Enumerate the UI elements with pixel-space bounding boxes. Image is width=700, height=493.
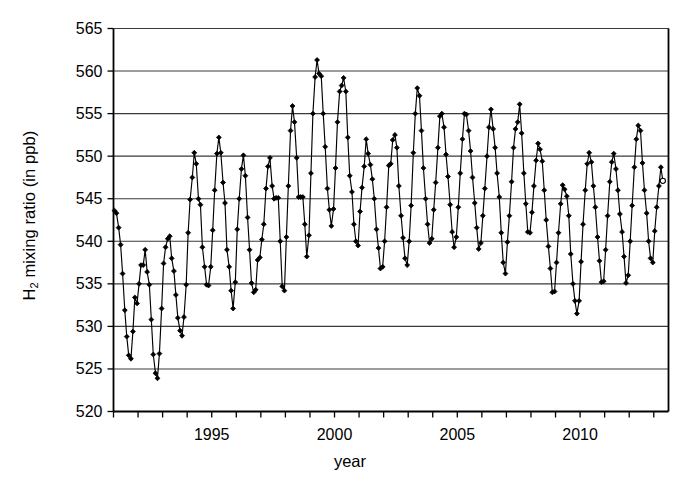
data-point xyxy=(192,150,197,155)
data-point xyxy=(499,230,504,235)
data-point xyxy=(593,205,598,210)
data-point xyxy=(353,239,358,244)
data-point xyxy=(509,179,514,184)
data-point xyxy=(652,229,657,234)
data-point xyxy=(178,328,183,333)
data-point xyxy=(143,247,148,252)
data-point xyxy=(505,240,510,245)
data-point xyxy=(323,144,328,149)
data-point xyxy=(507,213,512,218)
data-point xyxy=(615,188,620,193)
data-point xyxy=(208,264,213,269)
y-tick-label-560: 560 xyxy=(76,63,103,80)
data-point xyxy=(646,239,651,244)
x-tick-label-2005: 2005 xyxy=(440,426,476,443)
data-point xyxy=(190,175,195,180)
data-point xyxy=(470,175,475,180)
data-point xyxy=(218,150,223,155)
data-point xyxy=(313,75,318,80)
data-point xyxy=(458,171,463,176)
data-point xyxy=(442,125,447,130)
data-point xyxy=(304,254,309,259)
data-point xyxy=(221,180,226,185)
data-point xyxy=(480,213,485,218)
data-point xyxy=(374,227,379,232)
data-point xyxy=(493,145,498,150)
data-point xyxy=(564,194,569,199)
data-point xyxy=(617,212,622,217)
data-point xyxy=(245,215,250,220)
data-point xyxy=(542,188,547,193)
data-point xyxy=(581,222,586,227)
data-point xyxy=(175,315,180,320)
data-point xyxy=(137,281,142,286)
data-point xyxy=(288,128,293,133)
data-point xyxy=(216,135,221,140)
data-point xyxy=(634,137,639,142)
data-point xyxy=(489,107,494,112)
data-point xyxy=(155,376,160,381)
data-point xyxy=(368,162,373,167)
data-point xyxy=(511,145,516,150)
y-tick-labels-group: 520525530535540545550555560565 xyxy=(76,20,103,420)
data-point xyxy=(135,301,140,306)
data-point xyxy=(544,218,549,223)
data-point xyxy=(454,235,459,240)
data-point xyxy=(292,120,297,125)
y-tick-label-555: 555 xyxy=(76,105,103,122)
data-point xyxy=(308,171,313,176)
data-point xyxy=(485,154,490,159)
series-line-0 xyxy=(114,60,662,378)
data-point xyxy=(396,184,401,189)
data-point xyxy=(270,184,275,189)
data-point xyxy=(278,239,283,244)
data-point xyxy=(630,203,635,208)
data-point xyxy=(476,246,481,251)
data-point xyxy=(656,184,661,189)
data-point xyxy=(531,184,536,189)
data-point xyxy=(157,351,162,356)
data-point xyxy=(472,201,477,206)
data-point xyxy=(413,111,418,116)
data-point xyxy=(198,202,203,207)
data-point xyxy=(456,205,461,210)
data-point xyxy=(194,161,199,166)
data-point xyxy=(327,207,332,212)
data-point xyxy=(466,128,471,133)
data-point xyxy=(628,239,633,244)
data-point xyxy=(325,186,330,191)
data-point xyxy=(415,86,420,91)
data-point xyxy=(370,177,375,182)
data-point xyxy=(302,222,307,227)
data-point xyxy=(202,264,207,269)
data-point xyxy=(364,137,369,142)
data-point xyxy=(333,166,338,171)
data-point xyxy=(650,260,655,265)
data-point xyxy=(235,227,240,232)
data-point xyxy=(171,269,176,274)
data-point xyxy=(624,281,629,286)
data-point xyxy=(182,315,187,320)
data-point xyxy=(474,225,479,230)
data-point xyxy=(173,292,178,297)
data-point xyxy=(290,104,295,109)
data-point xyxy=(574,311,579,316)
data-point xyxy=(401,235,406,240)
data-point xyxy=(350,189,355,194)
data-point xyxy=(513,126,518,131)
data-point xyxy=(411,150,416,155)
data-point xyxy=(468,149,473,154)
data-point xyxy=(482,186,487,191)
data-point xyxy=(644,211,649,216)
data-point xyxy=(536,141,541,146)
data-point xyxy=(658,165,663,170)
y-tick-label-545: 545 xyxy=(76,190,103,207)
data-point xyxy=(184,282,189,287)
y-axis-title-subscript: 2 xyxy=(29,282,41,288)
axis-frame xyxy=(114,29,669,412)
data-point xyxy=(247,247,252,252)
data-point xyxy=(399,213,404,218)
data-point xyxy=(280,284,285,289)
data-point xyxy=(614,166,619,171)
data-point xyxy=(223,201,228,206)
